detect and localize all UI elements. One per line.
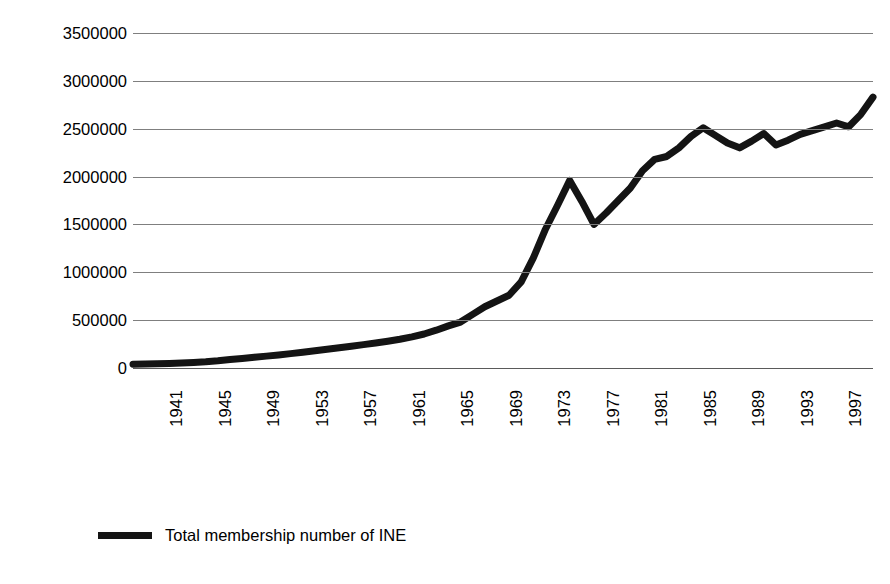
x-tick-label: 1969 — [508, 390, 525, 460]
x-tick-label: 1965 — [459, 390, 476, 460]
series-layer — [133, 33, 873, 368]
gridline — [133, 177, 873, 178]
x-tick-label: 1989 — [750, 390, 767, 460]
y-tick-label: 3500000 — [7, 25, 127, 41]
gridline — [133, 33, 873, 34]
gridline — [133, 224, 873, 225]
x-tick-label: 1941 — [168, 390, 185, 460]
gridline — [133, 129, 873, 130]
y-tick-label: 1000000 — [7, 264, 127, 280]
y-axis: 3500000300000025000002000000150000010000… — [0, 0, 127, 400]
plot-area — [133, 33, 873, 368]
gridline — [133, 81, 873, 82]
x-tick-label: 1973 — [556, 390, 573, 460]
legend-label: Total membership number of INE — [165, 526, 406, 544]
x-tick-label: 1993 — [799, 390, 816, 460]
membership-line-chart: 3500000300000025000002000000150000010000… — [0, 0, 890, 584]
y-tick-label: 0 — [7, 360, 127, 376]
gridline — [133, 272, 873, 273]
x-axis: 1941194519491953195719611965196919731977… — [133, 368, 873, 478]
y-tick-label: 1500000 — [7, 216, 127, 232]
gridline — [133, 320, 873, 321]
x-tick-label: 1977 — [605, 390, 622, 460]
x-tick-label: 1981 — [653, 390, 670, 460]
series-line-total-membership — [133, 97, 873, 364]
x-tick-label: 1953 — [314, 390, 331, 460]
y-tick-label: 500000 — [7, 312, 127, 328]
chart-legend: Total membership number of INE — [98, 526, 406, 544]
x-tick-label: 1949 — [265, 390, 282, 460]
x-tick-label: 1957 — [362, 390, 379, 460]
x-tick-label: 1961 — [411, 390, 428, 460]
x-tick-label: 1985 — [702, 390, 719, 460]
y-tick-label: 3000000 — [7, 73, 127, 89]
legend-line-swatch — [98, 532, 152, 539]
x-tick-label: 1997 — [847, 390, 864, 460]
x-tick-label: 1945 — [217, 390, 234, 460]
y-tick-label: 2000000 — [7, 169, 127, 185]
y-tick-label: 2500000 — [7, 121, 127, 137]
